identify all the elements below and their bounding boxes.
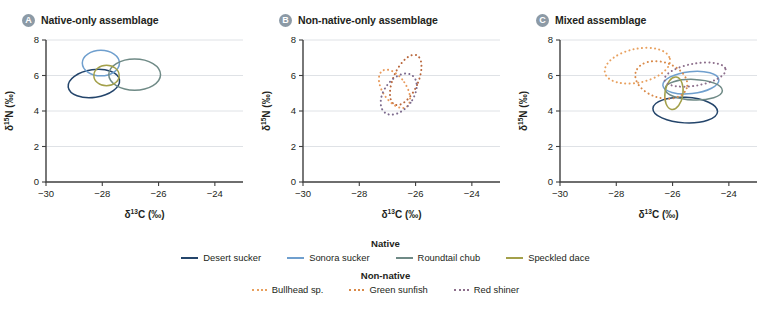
y-tick-label: 4 [34,105,39,116]
y-tick-label: 2 [291,141,296,152]
y-tick-label: 6 [548,70,553,81]
plot-area: 02468−30−28−26−24δ13C (‰)δ15N (‰) [514,28,771,228]
legend-swatch [252,289,267,291]
panel-title: Mixed assemblage [555,14,646,26]
legend-label: Roundtail chub [418,252,481,263]
niche-ellipse [383,50,428,109]
x-tick-label: −28 [94,188,110,199]
legend-group-title: Non-native [0,270,771,281]
svg-text:δ15N (‰): δ15N (‰) [517,91,529,131]
legend-swatch [181,257,198,259]
x-tick-label: −30 [38,188,54,199]
panel-a: ANative-only assemblage02468−30−28−26−24… [0,0,257,235]
legend-swatch [349,289,364,291]
x-tick-label: −26 [408,188,424,199]
legend-swatch [396,257,413,259]
y-tick-label: 6 [291,70,296,81]
x-tick-label: −24 [207,188,223,199]
legend-swatch [454,289,469,291]
legend-swatch [287,257,304,259]
legend-item[interactable]: Roundtail chub [396,252,481,263]
plot-area: 02468−30−28−26−24δ13C (‰)δ15N (‰) [0,28,257,228]
y-tick-label: 2 [34,141,39,152]
y-tick-label: 8 [291,34,296,45]
y-tick-label: 0 [291,176,296,187]
legend-label: Red shiner [474,284,519,295]
niche-ellipse [373,67,424,122]
x-tick-label: −30 [552,188,568,199]
panel-title: Native-only assemblage [41,14,158,26]
x-tick-label: −26 [665,188,681,199]
x-tick-label: −24 [721,188,737,199]
niche-ellipse [663,58,728,90]
y-tick-label: 0 [34,176,39,187]
svg-text:δ15N (‰): δ15N (‰) [260,91,272,131]
legend-group-title: Native [0,238,771,249]
x-tick-label: −28 [608,188,624,199]
panel-badge: A [22,14,35,27]
legend-row: Desert suckerSonora suckerRoundtail chub… [0,252,771,263]
legend-swatch [506,257,523,259]
legend-label: Green sunfish [369,284,427,295]
niche-ellipse [82,50,119,76]
y-tick-label: 8 [34,34,39,45]
svg-text:δ13C (‰): δ13C (‰) [124,208,164,220]
legend-label: Speckled dace [528,252,590,263]
legend-row: Bullhead sp.Green sunfishRed shiner [0,284,771,295]
panel-b: BNon-native-only assemblage02468−30−28−2… [257,0,514,235]
plot-area: 02468−30−28−26−24δ13C (‰)δ15N (‰) [257,28,514,228]
legend-label: Bullhead sp. [272,284,324,295]
legend-item[interactable]: Green sunfish [349,284,427,295]
figure-legend: NativeDesert suckerSonora suckerRoundtai… [0,238,771,302]
legend-label: Sonora sucker [309,252,369,263]
x-tick-label: −30 [295,188,311,199]
y-tick-label: 2 [548,141,553,152]
legend-item[interactable]: Speckled dace [506,252,590,263]
y-tick-label: 4 [548,105,553,116]
niche-ellipse [373,64,417,113]
x-tick-label: −26 [151,188,167,199]
panel-title: Non-native-only assemblage [298,14,438,26]
svg-text:δ13C (‰): δ13C (‰) [638,208,678,220]
svg-text:δ13C (‰): δ13C (‰) [381,208,421,220]
panel-header: BNon-native-only assemblage [257,0,514,30]
legend-item[interactable]: Desert sucker [181,252,261,263]
legend-item[interactable]: Red shiner [454,284,519,295]
panel-c: CMixed assemblage02468−30−28−26−24δ13C (… [514,0,771,235]
niche-ellipse [601,42,673,89]
panel-header: ANative-only assemblage [0,0,257,30]
y-tick-label: 0 [548,176,553,187]
legend-item[interactable]: Bullhead sp. [252,284,324,295]
y-tick-label: 6 [34,70,39,81]
panel-badge: B [279,14,292,27]
x-tick-label: −24 [464,188,480,199]
y-tick-label: 8 [548,34,553,45]
legend-item[interactable]: Sonora sucker [287,252,369,263]
svg-text:δ15N (‰): δ15N (‰) [3,91,15,131]
x-tick-label: −28 [351,188,367,199]
panel-header: CMixed assemblage [514,0,771,30]
legend-label: Desert sucker [203,252,261,263]
isotope-niche-figure: ANative-only assemblage02468−30−28−26−24… [0,0,771,327]
y-tick-label: 4 [291,105,296,116]
panel-badge: C [536,14,549,27]
panel-row: ANative-only assemblage02468−30−28−26−24… [0,0,771,235]
